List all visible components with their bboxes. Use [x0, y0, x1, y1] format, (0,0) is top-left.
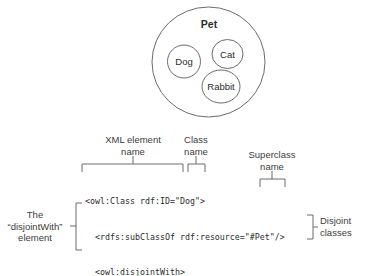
- annotation-disjoint-classes-line2: classes: [320, 227, 352, 238]
- annotation-class-name: Class name: [171, 134, 221, 157]
- figure-root: Pet Dog Cat Rabbit XML element name: [0, 0, 366, 276]
- code-line: <owl:disjointWith>: [85, 267, 285, 276]
- annotation-disjoint-classes: Disjoint classes: [320, 215, 364, 238]
- class-name-bracket: [188, 164, 205, 172]
- annotation-class-name-line2: name: [184, 146, 208, 157]
- code-line: <rdfs:subClassOf rdf:resource="#Pet"/>: [85, 232, 285, 244]
- code-line: <owl:Class rdf:ID="Dog">: [85, 196, 285, 208]
- annotation-superclass-name-line2: name: [260, 161, 284, 172]
- annotation-disjointwith-element: The “disjointWith” element: [2, 209, 68, 244]
- annotation-disjointwith-line3: element: [18, 232, 52, 243]
- xml-element-name-bracket: [82, 164, 183, 172]
- annotation-xml-element-name: XML element name: [84, 134, 182, 157]
- annotation-disjointwith-line2: “disjointWith”: [8, 221, 63, 232]
- disjoint-classes-bracket: [307, 215, 313, 239]
- annotation-class-name-line1: Class: [184, 134, 208, 145]
- annotation-xml-element-name-line1: XML element: [105, 134, 161, 145]
- annotation-superclass-name: Superclass name: [234, 149, 310, 172]
- annotation-disjointwith-line1: The: [27, 209, 43, 220]
- annotation-xml-element-name-line2: name: [121, 146, 145, 157]
- owl-code-listing: <owl:Class rdf:ID="Dog"> <rdfs:subClassO…: [85, 172, 285, 276]
- annotation-disjoint-classes-line1: Disjoint: [320, 215, 351, 226]
- annotation-superclass-name-line1: Superclass: [249, 149, 296, 160]
- disjointwith-bracket: [76, 203, 82, 250]
